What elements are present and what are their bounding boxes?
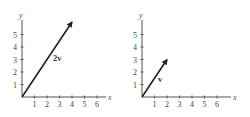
- x-tick-label: 3: [58, 100, 62, 109]
- x-tick-label: 4: [70, 100, 74, 109]
- y-tick-label: 1: [13, 81, 17, 90]
- y-axis-label: y: [18, 11, 23, 20]
- x-tick-label: 1: [153, 100, 157, 109]
- x-tick-label: 2: [45, 100, 49, 109]
- y-tick-label: 5: [133, 31, 137, 40]
- vector-2v-arrow: [22, 22, 72, 97]
- y-tick-label: 4: [133, 43, 137, 52]
- y-tick-label: 2: [13, 68, 17, 77]
- figure: x y 1 2 3 4 5 6 1 2 3 4 5: [0, 0, 250, 117]
- x-tick-label: 3: [178, 100, 182, 109]
- y-tick-label: 1: [133, 81, 137, 90]
- y-axis-label: y: [138, 11, 143, 20]
- x-tick-label: 4: [190, 100, 194, 109]
- x-tick-label: 6: [95, 100, 99, 109]
- vector-v-label: v: [158, 74, 163, 84]
- x-ticks: 1 2 3 4 5 6: [153, 96, 220, 110]
- y-tick-label: 3: [13, 56, 17, 65]
- x-tick-label: 6: [215, 100, 219, 109]
- y-tick-label: 5: [13, 31, 17, 40]
- vector-v-arrow: [142, 60, 167, 98]
- vector-2v-label: 2v: [53, 53, 62, 63]
- x-ticks: 1 2 3 4 5 6: [33, 96, 100, 110]
- x-axis-label: x: [107, 93, 112, 102]
- y-tick-label: 2: [133, 68, 137, 77]
- x-tick-label: 1: [33, 100, 37, 109]
- x-tick-label: 5: [83, 100, 87, 109]
- y-tick-label: 3: [133, 56, 137, 65]
- x-tick-label: 2: [165, 100, 169, 109]
- x-axis-label: x: [232, 93, 237, 102]
- x-tick-label: 5: [203, 100, 207, 109]
- left-graph: x y 1 2 3 4 5 6 1 2 3 4 5: [13, 11, 112, 109]
- y-tick-label: 4: [13, 43, 17, 52]
- right-graph: x y 1 2 3 4 5 6 1 2 3 4 5: [133, 11, 237, 109]
